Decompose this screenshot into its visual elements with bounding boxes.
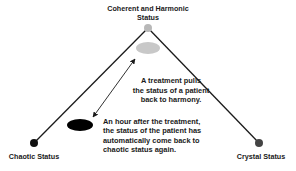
- relapse-note-line: An hour after the treatment,: [103, 117, 223, 126]
- treatment-note-line: the status of a patient: [128, 86, 214, 96]
- chaotic-status-label: Chaotic Status: [4, 153, 64, 162]
- apex-dot: [144, 24, 152, 32]
- relapse-note: An hour after the treatment, the status …: [103, 117, 223, 155]
- crystal-dot: [255, 139, 263, 147]
- chaotic-dot: [30, 139, 38, 147]
- treatment-note-line: A treatment pulls: [128, 76, 214, 86]
- crystal-status-label: Crystal Status: [231, 153, 291, 162]
- relapse-note-line: automatically come back to: [103, 136, 223, 145]
- relapse-note-line: chaotic status again.: [103, 145, 223, 154]
- relapse-note-line: the status of the patient has: [103, 126, 223, 135]
- chaotic-ellipse: [67, 119, 93, 131]
- treatment-note-line: back to harmony.: [128, 95, 214, 105]
- apex-label-line: Status: [98, 14, 198, 23]
- harmony-ellipse: [136, 42, 160, 54]
- apex-label: Coherent and Harmonic Status: [98, 5, 198, 22]
- treatment-note: A treatment pulls the status of a patien…: [128, 76, 214, 105]
